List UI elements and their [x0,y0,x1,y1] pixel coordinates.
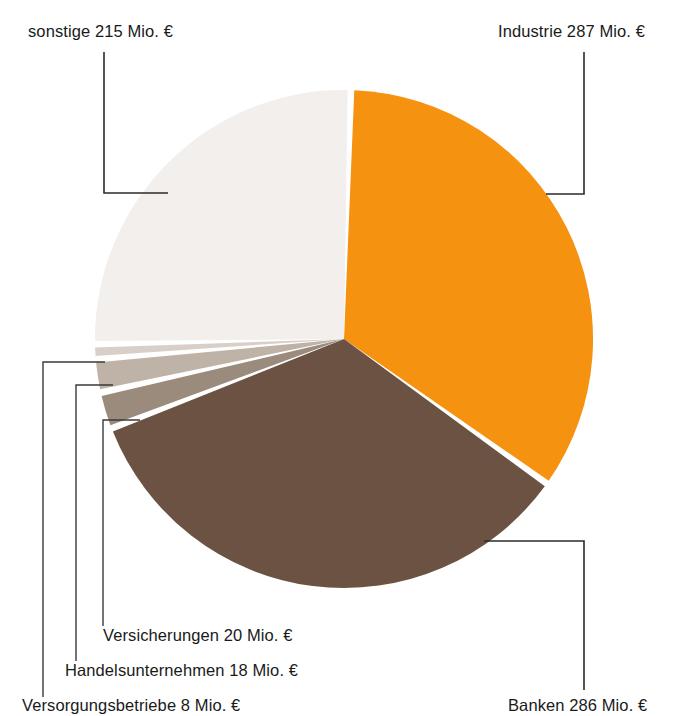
label-industrie: Industrie 287 Mio. € [498,22,645,41]
label-sonstige: sonstige 215 Mio. € [28,22,173,41]
label-versicherungen: Versicherungen 20 Mio. € [103,626,293,645]
leader-line-industrie [546,52,584,194]
label-handelsunternehmen: Handelsunternehmen 18 Mio. € [65,661,298,680]
pie-chart: sonstige 215 Mio. € Industrie 287 Mio. €… [0,0,693,716]
pie-slices [95,90,593,588]
leader-line-banken [484,541,584,690]
leader-line-versorgungsbetriebe [43,362,105,697]
leader-line-sonstige [104,52,168,193]
leader-line-handelsunternehmen [76,385,113,661]
slice-sonstige[interactable] [95,90,348,341]
label-versorgungsbetriebe: Versorgungsbetriebe 8 Mio. € [22,696,240,715]
pie-chart-svg [0,0,693,716]
label-banken: Banken 286 Mio. € [508,696,647,715]
